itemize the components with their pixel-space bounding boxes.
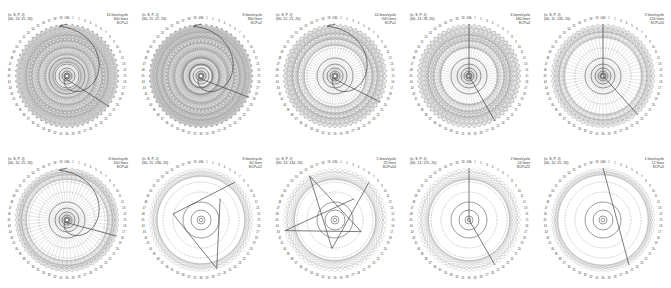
svg-text:5: 5 [229,168,231,172]
svg-text:11: 11 [655,194,658,198]
svg-text:9: 9 [381,184,383,188]
svg-text:20: 20 [652,247,655,251]
svg-text:10: 10 [384,45,387,49]
svg-text:20: 20 [250,103,253,107]
svg-text:41: 41 [549,241,552,245]
svg-text:55: 55 [305,168,308,172]
svg-text:42: 42 [278,236,281,240]
svg-text:51: 51 [19,184,22,188]
svg-text:6: 6 [368,171,370,175]
svg-text:52: 52 [156,35,159,39]
svg-text:24: 24 [502,121,505,125]
svg-text:59: 59 [327,160,330,164]
svg-text:32: 32 [321,275,324,279]
svg-text:29: 29 [206,132,209,136]
svg-text:17: 17 [256,230,259,234]
scp-value: SCP=10 [644,21,664,25]
svg-text:1: 1 [608,160,610,164]
svg-text:20: 20 [518,247,521,251]
svg-text:23: 23 [640,261,643,265]
svg-text:48: 48 [546,56,549,60]
svg-text:2: 2 [480,17,482,21]
svg-text:46: 46 [544,212,547,216]
svg-text:58: 58 [455,17,458,21]
svg-text:57: 57 [48,19,51,23]
panel-5: 0/60123456789101112131415161718192021222… [536,0,670,144]
svg-text:26: 26 [223,127,226,131]
svg-text:16: 16 [257,80,260,84]
panel-params-label: (n, S, P, J) (60, 11, 145, 20) [544,13,570,21]
svg-text:52: 52 [424,35,427,39]
svg-text:40: 40 [15,247,18,251]
svg-text:19: 19 [387,97,390,101]
svg-text:43: 43 [9,230,12,234]
svg-text:8: 8 [377,35,379,39]
svg-text:4: 4 [224,165,226,169]
svg-text:53: 53 [563,31,566,35]
svg-text:55: 55 [37,24,40,28]
svg-text:20: 20 [116,247,119,251]
svg-text:41: 41 [281,241,284,245]
svg-text:28: 28 [346,131,349,135]
svg-text:56: 56 [444,21,447,25]
svg-text:52: 52 [22,35,25,39]
svg-text:25: 25 [363,124,366,128]
svg-text:20: 20 [384,247,387,251]
svg-text:21: 21 [112,252,115,256]
svg-text:43: 43 [277,86,280,90]
svg-text:38: 38 [156,257,159,261]
panel-stats-label: 1 lines/cycle 12 lines SCP=5 [644,157,664,170]
svg-text:50: 50 [417,189,420,193]
svg-text:54: 54 [433,27,436,31]
svg-text:31: 31 [327,132,330,136]
svg-text:16: 16 [659,80,662,84]
svg-text:19: 19 [119,97,122,101]
svg-text:11: 11 [521,50,524,54]
svg-text:6: 6 [502,171,504,175]
svg-text:41: 41 [147,97,150,101]
svg-text:14: 14 [391,212,394,216]
svg-text:18: 18 [389,92,392,96]
svg-text:31: 31 [193,132,196,136]
svg-text:47: 47 [143,62,146,66]
svg-text:24: 24 [368,265,371,269]
svg-text:38: 38 [424,113,427,117]
svg-text:51: 51 [421,184,424,188]
svg-text:53: 53 [295,175,298,179]
svg-text:43: 43 [9,86,12,90]
svg-text:12: 12 [523,200,526,204]
svg-text:17: 17 [658,86,661,90]
svg-text:55: 55 [439,24,442,28]
svg-text:54: 54 [299,171,302,175]
svg-text:18: 18 [255,236,258,240]
svg-text:34: 34 [444,271,447,275]
svg-text:0/60: 0/60 [64,16,70,20]
svg-text:37: 37 [27,117,30,121]
svg-text:50: 50 [15,189,18,193]
svg-text:43: 43 [545,86,548,90]
svg-text:39: 39 [287,108,290,112]
svg-text:0/60: 0/60 [64,160,70,164]
svg-text:45: 45 [544,218,547,222]
svg-text:43: 43 [545,230,548,234]
svg-text:29: 29 [206,276,209,280]
svg-text:44: 44 [8,224,11,228]
svg-text:53: 53 [27,175,30,179]
svg-text:44: 44 [410,80,413,84]
svg-text:49: 49 [13,50,16,54]
svg-text:13: 13 [390,206,393,210]
svg-text:49: 49 [281,194,284,198]
svg-text:53: 53 [161,31,164,35]
svg-text:49: 49 [147,50,150,54]
svg-text:22: 22 [243,113,246,117]
svg-text:41: 41 [549,97,552,101]
svg-text:48: 48 [10,56,13,60]
scp-value: SCP=2 [242,21,262,25]
svg-text:37: 37 [563,117,566,121]
svg-text:35: 35 [37,124,40,128]
svg-text:38: 38 [22,257,25,261]
svg-text:21: 21 [648,252,651,256]
svg-text:54: 54 [567,27,570,31]
svg-text:19: 19 [387,241,390,245]
params-values: (60, 13, 15, 20) [8,17,32,21]
